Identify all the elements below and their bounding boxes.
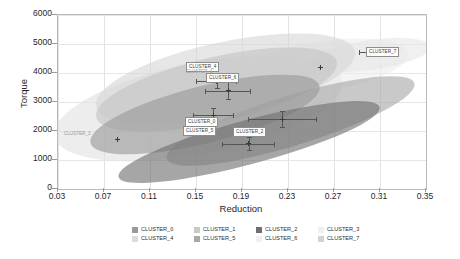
x-tick-label: 0.23 [267,192,307,201]
y-tick-label: 2000 [6,125,52,134]
plot-area [57,14,427,190]
legend-label: CLUSTER_7 [327,235,359,242]
cluster-annotation-label: CLUSTER_5 [183,126,216,136]
gridline-vertical [426,15,427,189]
legend-label: CLUSTER_4 [141,235,173,242]
legend-swatch-icon [318,236,324,242]
y-tick-label: 1000 [6,154,52,163]
y-tick-label: 3000 [6,96,52,105]
legend-item-cluster_4[interactable]: CLUSTER_4 [132,235,194,242]
legend-item-cluster_1[interactable]: CLUSTER_1 [194,226,256,233]
x-tick-label: 0.19 [221,192,261,201]
legend-label: CLUSTER_0 [141,226,173,233]
gridline-horizontal [58,15,426,16]
cluster-annotation-label: CLUSTER_2 [233,127,266,137]
cluster-centroid-marker [246,141,251,146]
legend-label: CLUSTER_1 [203,226,235,233]
x-tick-mark [379,188,380,192]
x-tick-label: 0.27 [313,192,353,201]
legend-item-cluster_2[interactable]: CLUSTER_2 [256,226,318,233]
legend-item-cluster_0[interactable]: CLUSTER_0 [132,226,194,233]
x-tick-mark [241,188,242,192]
legend-swatch-icon [256,227,262,233]
legend-swatch-icon [256,236,262,242]
legend-swatch-icon [194,236,200,242]
x-tick-label: 0.11 [129,192,169,201]
x-tick-mark [333,188,334,192]
x-tick-label: 0.35 [405,192,445,201]
legend-label: CLUSTER_3 [327,226,359,233]
legend-item-cluster_7[interactable]: CLUSTER_7 [318,235,380,242]
y-tick-label: 5000 [6,38,52,47]
legend-label: CLUSTER_2 [265,226,297,233]
y-tick-label: 0 [6,183,52,192]
legend-swatch-icon [194,227,200,233]
x-tick-mark [195,188,196,192]
y-tick-label: 4000 [6,67,52,76]
cluster-centroid-marker [226,88,231,93]
legend-swatch-icon [318,227,324,233]
x-tick-mark [287,188,288,192]
x-tick-label: 0.03 [37,192,77,201]
legend-item-cluster_5[interactable]: CLUSTER_5 [194,235,256,242]
cluster-centroid-marker [318,65,323,70]
y-axis-ticks: 0100020003000400050006000 [0,0,57,259]
x-tick-mark [57,188,58,192]
legend-row: CLUSTER_4CLUSTER_5CLUSTER_6CLUSTER_7 [132,234,382,243]
chart-legend: CLUSTER_0CLUSTER_1CLUSTER_2CLUSTER_3CLUS… [132,225,382,243]
x-tick-label: 0.07 [83,192,123,201]
legend-label: CLUSTER_6 [265,235,297,242]
gridline-horizontal [58,189,426,190]
cluster-annotation-label: CLUSTER_3 [64,131,91,137]
x-tick-label: 0.31 [359,192,399,201]
cluster-centroid-marker [280,117,285,122]
legend-item-cluster_3[interactable]: CLUSTER_3 [318,226,380,233]
legend-item-cluster_6[interactable]: CLUSTER_6 [256,235,318,242]
cluster-annotation-label: CLUSTER_6 [206,73,239,83]
legend-label: CLUSTER_5 [203,235,235,242]
x-tick-mark [103,188,104,192]
x-axis-label: Reduction [57,203,425,214]
y-tick-label: 6000 [6,9,52,18]
cluster-centroid-marker [115,137,120,142]
legend-swatch-icon [132,227,138,233]
legend-row: CLUSTER_0CLUSTER_1CLUSTER_2CLUSTER_3 [132,225,382,234]
x-tick-label: 0.15 [175,192,215,201]
cluster-ellipse-chart: Torque 0100020003000400050006000 0.030.0… [0,0,460,259]
cluster-annotation-label: CLUSTER_7 [366,47,399,57]
x-tick-mark [149,188,150,192]
legend-swatch-icon [132,236,138,242]
x-tick-mark [425,188,426,192]
